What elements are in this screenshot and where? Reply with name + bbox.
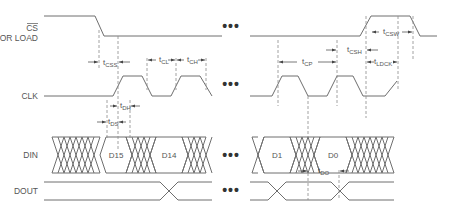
timing-diagram: CS OR LOAD CLK DIN DOUT D1	[0, 0, 449, 216]
bit-d15: D15	[109, 151, 124, 160]
timing-tcsw: tCSW	[372, 27, 412, 37]
bit-d1: D1	[272, 151, 283, 160]
ellipsis-cs: •••	[222, 18, 240, 34]
din-label: DIN	[23, 150, 38, 160]
dout-label: DOUT	[14, 186, 38, 196]
timing-tcss: tCSS	[88, 58, 130, 68]
clk-label: CLK	[21, 91, 38, 101]
svg-text:tCL: tCL	[159, 55, 170, 65]
svg-text:tDH: tDH	[120, 101, 131, 111]
ellipsis-dout: •••	[222, 182, 240, 198]
bit-d0: D0	[328, 151, 339, 160]
cs-waveform	[44, 16, 437, 36]
ellipsis-din: •••	[222, 147, 240, 163]
timing-tds: tDS	[97, 117, 126, 127]
guide-lines	[99, 16, 413, 200]
svg-text:tDS: tDS	[108, 117, 119, 127]
dout-waveform	[44, 182, 394, 200]
timing-tcl: tCL	[148, 55, 175, 65]
svg-text:tCH: tCH	[187, 55, 198, 65]
timing-tdh: tDH	[110, 101, 140, 111]
timing-tch: tCH	[177, 55, 205, 65]
bit-d14: D14	[162, 151, 177, 160]
timing-tcp: tCP	[279, 57, 336, 67]
svg-text:tDO: tDO	[318, 166, 330, 176]
or-load-label: OR LOAD	[0, 33, 38, 43]
cs-load-label: CS OR LOAD	[0, 23, 38, 43]
svg-text:tCP: tCP	[302, 57, 313, 67]
svg-text:tCSS: tCSS	[103, 58, 118, 68]
timing-tcsh: tCSH	[326, 45, 378, 55]
svg-text:tCSH: tCSH	[347, 45, 362, 55]
clk-waveform	[44, 76, 397, 96]
timing-tldck: tLDCK	[367, 57, 397, 67]
cs-label: CS	[26, 23, 38, 33]
svg-text:tCSW: tCSW	[383, 27, 400, 37]
ellipsis-clk: •••	[222, 76, 240, 92]
svg-text:tLDCK: tLDCK	[374, 57, 392, 67]
